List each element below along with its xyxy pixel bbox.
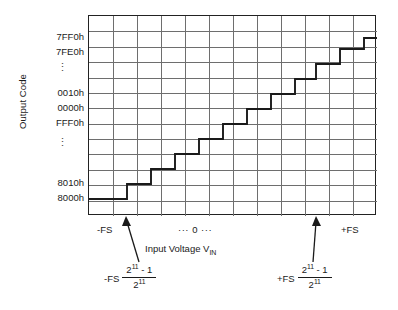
left-formula-fraction: 211 - 1 211: [122, 265, 156, 289]
right-arrow-head-icon: [312, 216, 321, 226]
left-formula-denominator-base: 2: [133, 279, 138, 290]
y-tick-label-8000h: 8000h: [26, 193, 84, 203]
y-tick-label-7fe0h: 7FE0h: [26, 47, 84, 57]
y-tick-label-0000h: 0000h: [26, 103, 84, 113]
y-tick-label-fff0h: FFF0h: [26, 118, 84, 128]
left-formula-numerator-suffix: - 1: [139, 264, 153, 275]
right-formula-denominator-exponent: 11: [314, 278, 321, 285]
right-formula-fraction-bar: [298, 277, 332, 278]
adc-transfer-function-figure: Output Code 7FF0h 7FE0h ⋮ 0010h 0000h FF…: [0, 0, 398, 310]
right-formula-denominator-base: 2: [309, 279, 314, 290]
right-formula-numerator: 211 - 1: [298, 265, 332, 277]
left-formula-lead: -FS: [104, 273, 119, 284]
right-threshold-formula: +FS 211 - 1 211: [277, 266, 332, 290]
right-formula-fraction: 211 - 1 211: [298, 265, 332, 289]
y-tick-label-ellipsis-lower: ⋮: [26, 138, 84, 148]
y-tick-label-8010h: 8010h: [26, 178, 84, 188]
left-formula-numerator-base: 2: [126, 264, 131, 275]
y-tick-label-0010h: 0010h: [26, 88, 84, 98]
x-axis-title-text: Input Voltage V: [145, 243, 209, 254]
grid-and-curve: [89, 16, 377, 216]
left-threshold-formula: -FS 211 - 1 211: [104, 266, 156, 290]
right-formula-denominator: 211: [305, 278, 325, 290]
x-axis-title-subscript: IN: [209, 249, 216, 256]
x-axis-title: Input Voltage VIN: [145, 243, 216, 256]
left-formula-numerator: 211 - 1: [122, 265, 156, 277]
left-formula-fraction-bar: [122, 277, 156, 278]
left-formula-denominator: 211: [129, 278, 149, 290]
x-tick-label-negative-fs: -FS: [97, 224, 112, 235]
y-tick-label-ellipsis-upper: ⋮: [26, 63, 84, 73]
right-formula-numerator-suffix: - 1: [314, 264, 328, 275]
right-arrow-shaft: [313, 222, 316, 262]
right-formula-numerator-base: 2: [302, 264, 307, 275]
right-formula-numerator-exponent: 11: [307, 263, 314, 270]
x-tick-label-positive-fs: +FS: [341, 224, 359, 235]
y-tick-label-7ff0h: 7FF0h: [26, 32, 84, 42]
left-formula-numerator-exponent: 11: [132, 263, 139, 270]
left-arrow-head-icon: [122, 216, 131, 226]
x-tick-label-zero: ··· 0 ···: [178, 224, 212, 235]
right-formula-lead: +FS: [277, 273, 295, 284]
left-arrow-shaft: [127, 222, 139, 262]
grid-lines: [89, 16, 377, 216]
left-formula-denominator-exponent: 11: [139, 278, 146, 285]
plot-area: [88, 15, 376, 215]
y-axis-tick-labels: 7FF0h 7FE0h ⋮ 0010h 0000h FFF0h ⋮ 8010h …: [22, 0, 84, 215]
